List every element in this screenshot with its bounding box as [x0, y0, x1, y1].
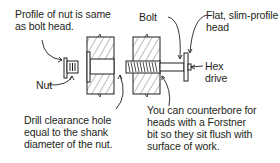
- left-workpiece: [87, 34, 114, 97]
- bolt-label: Bolt: [139, 11, 157, 23]
- nut-drawing: [64, 58, 78, 78]
- bolt-drawing: [160, 53, 191, 81]
- flat-head-label: Flat, slim-profile head: [206, 9, 278, 33]
- profile-note-label: Profile of nut is same as bolt head.: [15, 8, 111, 32]
- counterbore-note-label: You can counterbore for heads with a For…: [147, 104, 256, 152]
- right-workpiece: [126, 34, 160, 97]
- hex-drive-label: Hex drive: [205, 60, 227, 84]
- nut-label: Nut: [36, 79, 52, 91]
- drill-clearance-note-label: Drill clearance hole equal to the shank …: [24, 114, 112, 150]
